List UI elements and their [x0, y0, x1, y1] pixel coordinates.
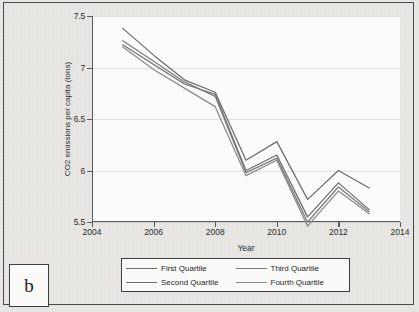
legend-line-swatch — [126, 282, 157, 283]
y-axis-title: CO2 emissions per capita (tons) — [63, 24, 72, 214]
y-tick-label: 7 — [80, 63, 85, 73]
x-tick-label: 2008 — [206, 227, 225, 237]
legend-label: Second Quartile — [161, 278, 218, 287]
legend-item: Fourth Quartile — [236, 278, 346, 287]
chart-legend: First QuartileThird QuartileSecond Quart… — [121, 258, 350, 292]
series-line — [123, 28, 369, 199]
x-tick-label: 2012 — [329, 227, 348, 237]
y-tick-label: 7.5 — [74, 11, 85, 21]
y-axis-title-container: CO2 emissions per capita (tons) — [32, 16, 46, 222]
legend-label: Fourth Quartile — [271, 278, 324, 287]
y-tick-label: 6.5 — [74, 114, 85, 124]
legend-label: Third Quartile — [271, 264, 319, 273]
legend-item: Second Quartile — [126, 278, 236, 287]
series-line — [123, 47, 369, 226]
legend-line-swatch — [236, 282, 267, 283]
x-tick-label: 2010 — [267, 227, 286, 237]
x-tick-label: 2006 — [144, 227, 163, 237]
x-axis-title: Year — [92, 243, 400, 253]
y-tick-label: 6 — [80, 166, 85, 176]
legend-line-swatch — [236, 268, 267, 269]
gridline — [92, 222, 400, 223]
y-tick-label: 5.5 — [74, 217, 85, 227]
legend-item: First Quartile — [126, 264, 236, 273]
panel-label-b: b — [9, 264, 49, 307]
data-series-layer — [92, 16, 400, 222]
legend-line-swatch — [126, 268, 157, 269]
x-tick-label: 2014 — [391, 227, 410, 237]
legend-item: Third Quartile — [236, 264, 346, 273]
x-tick-label: 2004 — [83, 227, 102, 237]
plot-area: 5.566.577.5 200420062008201020122014 — [92, 16, 400, 222]
figure-panel-b: CO2 emissions per capita (tons) 5.566.57… — [0, 0, 419, 312]
series-line — [123, 45, 369, 217]
legend-label: First Quartile — [161, 264, 207, 273]
